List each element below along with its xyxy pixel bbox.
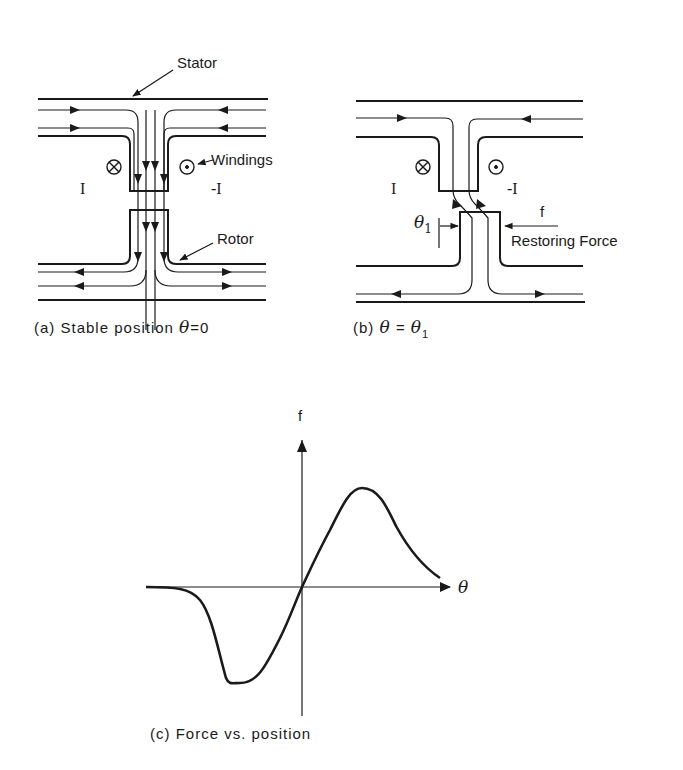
current-right-label: -I [507,180,518,197]
caption-c: (c) Force vs. position [150,725,311,742]
flux-arrows [391,114,545,298]
figure-canvas: Stator Windings Rotor I -I (a) Stable po… [0,0,683,770]
force-label: f [540,203,545,220]
cross-circle-icon [107,160,121,174]
stator-leader-arrow [133,70,173,96]
stator-label: Stator [177,54,217,71]
caption-a: (a) Stable position θ=0 [34,317,209,337]
theta1-label: θ1 [414,212,432,236]
x-axis-arrowhead [440,582,451,592]
x-axis-label: θ [458,577,468,597]
restoring-force-label: Restoring Force [511,232,618,249]
flux-line [469,119,583,294]
windings-label: Windings [211,151,273,168]
y-axis-label: f [298,407,303,424]
caption-b: (b) θ = θ1 [353,317,429,340]
force-curve [146,488,440,683]
dot-circle-icon [180,160,194,174]
flux-line [38,128,134,190]
current-right-label: -I [211,180,222,197]
dot-circle-icon [489,160,503,174]
current-left-label: I [391,180,396,197]
flux-arrows [70,106,232,290]
figure-a-stable-position [38,70,268,330]
y-axis-arrowhead [297,440,307,452]
current-left-label: I [80,180,85,197]
flux-line [38,110,138,258]
figure-b-displaced-position [356,101,585,302]
cross-circle-icon [416,160,430,174]
force-vs-position-chart [146,440,451,716]
rotor-leader-arrow [180,243,213,260]
rotor-label: Rotor [217,230,254,247]
